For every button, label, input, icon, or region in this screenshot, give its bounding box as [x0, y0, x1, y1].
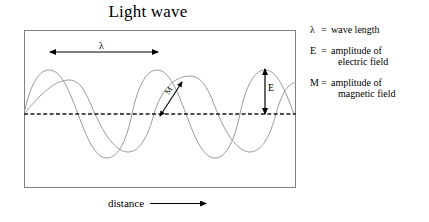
wave-plot-svg: [24, 30, 296, 188]
legend-description: amplitude of magnetic field: [331, 77, 429, 100]
legend: λ = wave length E = amplitude of electri…: [310, 24, 429, 109]
wavelength-symbol-label: λ: [99, 40, 104, 51]
distance-label: distance: [108, 197, 144, 209]
legend-row-wavelength: λ = wave length: [310, 24, 429, 36]
legend-equals: =: [321, 24, 331, 36]
legend-line-1: amplitude of: [331, 77, 382, 88]
legend-line-1: amplitude of: [331, 45, 382, 56]
legend-row-electric-field: E = amplitude of electric field: [310, 45, 429, 68]
amplitude-e-symbol-label: E: [268, 82, 274, 93]
legend-row-magnetic-field: M = amplitude of magnetic field: [310, 77, 429, 100]
legend-symbol: M: [310, 77, 321, 89]
diagram-root: Light wave λ E: [0, 0, 429, 222]
legend-symbol: E: [310, 45, 321, 57]
distance-arrow-icon: [150, 199, 212, 208]
legend-line-2: electric field: [331, 56, 429, 68]
legend-equals: =: [321, 45, 331, 57]
legend-symbol: λ: [310, 24, 321, 36]
legend-description: wave length: [331, 24, 429, 36]
legend-description: amplitude of electric field: [331, 45, 429, 68]
distance-axis-label-group: distance: [108, 197, 212, 209]
page-title: Light wave: [0, 2, 296, 22]
legend-line-2: magnetic field: [331, 88, 429, 100]
legend-equals: =: [321, 77, 331, 89]
legend-line-1: wave length: [331, 24, 380, 35]
